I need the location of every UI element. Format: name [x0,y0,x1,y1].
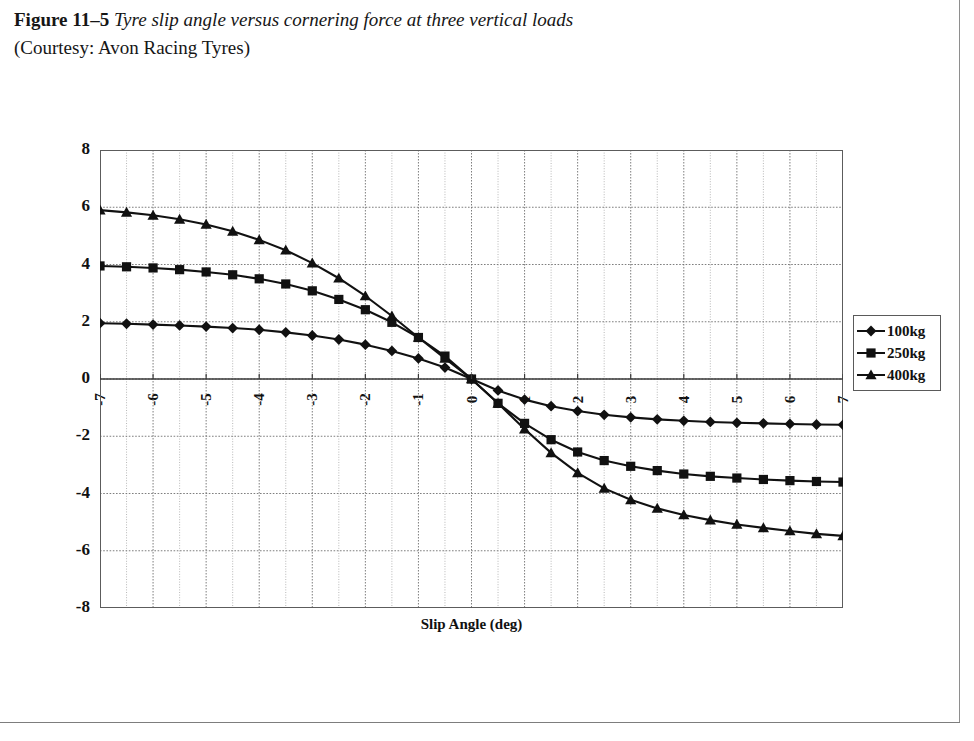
data-point-marker [413,353,424,364]
data-point-marker [546,401,557,412]
data-point-marker [678,415,689,426]
data-point-marker [361,305,370,314]
y-tick-label: 2 [56,315,90,327]
data-point-marker [100,261,105,270]
data-point-marker [440,362,451,373]
legend-label: 400kg [887,367,925,384]
data-point-marker [307,330,318,341]
data-point-marker [175,265,184,274]
data-point-marker [100,318,105,329]
data-point-marker [228,270,237,279]
figure-number: Figure 11–5 [14,9,109,30]
data-point-marker [599,483,610,493]
data-point-marker [307,257,318,267]
data-point-marker [334,295,343,304]
data-point-marker [333,273,344,283]
data-point-marker [811,419,822,430]
data-point-marker [573,447,582,456]
data-point-marker [255,274,264,283]
data-point-marker [202,267,211,276]
data-point-marker [600,456,609,465]
plot-area [100,150,843,608]
data-point-marker [785,476,794,485]
figure-credit: (Courtesy: Avon Racing Tyres) [14,34,874,62]
y-tick-label: 6 [56,200,90,212]
legend-marker-triangle-icon [856,368,886,382]
page-border-bottom [0,722,960,723]
data-point-marker [759,475,768,484]
data-point-marker [625,412,636,423]
data-point-marker [785,419,796,430]
legend-label: 100kg [887,323,925,340]
legend-item-100kg[interactable]: 100kg [856,320,936,342]
data-point-marker [706,472,715,481]
data-point-marker [148,319,159,330]
data-point-marker [386,346,397,357]
data-point-marker [148,263,157,272]
x-axis-title: Slip Angle (deg) [100,616,843,633]
chart-canvas [100,150,843,608]
legend-marker-square-icon [856,346,886,360]
data-point-marker [308,286,317,295]
data-point-marker [599,409,610,420]
chart-legend: 100kg250kg400kg [853,315,941,391]
data-point-marker [732,473,741,482]
figure-title: Tyre slip angle versus cornering force a… [114,9,573,30]
data-point-marker [280,327,291,338]
data-point-marker [360,339,371,350]
data-point-marker [201,321,212,332]
data-point-marker [838,419,843,430]
legend-item-400kg[interactable]: 400kg [856,364,936,386]
figure-caption: Figure 11–5 Tyre slip angle versus corne… [14,6,874,62]
data-point-marker [254,324,265,335]
data-point-marker [705,417,716,428]
data-point-marker [121,318,132,329]
legend-item-250kg[interactable]: 250kg [856,342,936,364]
data-point-marker [519,394,530,405]
data-point-marker [812,477,821,486]
data-point-marker [547,435,556,444]
figure-graphic: Cornering Force (KN) Slip Angle (deg) -8… [0,118,960,678]
legend-marker-diamond-icon [856,324,886,338]
data-point-marker [652,414,663,425]
data-point-marker [838,477,843,486]
y-tick-label: -6 [56,544,90,556]
y-tick-label: 0 [56,372,90,384]
data-point-marker [679,469,688,478]
data-point-marker [122,262,131,271]
data-point-marker [758,418,769,429]
data-point-marker [333,334,344,345]
y-tick-label: -2 [56,429,90,441]
data-point-marker [731,417,742,428]
data-point-marker [572,406,583,417]
data-point-marker [281,279,290,288]
data-point-marker [360,290,371,300]
y-tick-label: 4 [56,258,90,270]
data-point-marker [493,385,504,396]
y-tick-label: -4 [56,487,90,499]
data-point-marker [227,323,238,334]
y-tick-label: 8 [56,143,90,155]
data-point-marker [653,466,662,475]
data-point-marker [626,462,635,471]
y-tick-label: -8 [56,601,90,613]
legend-label: 250kg [887,345,925,362]
